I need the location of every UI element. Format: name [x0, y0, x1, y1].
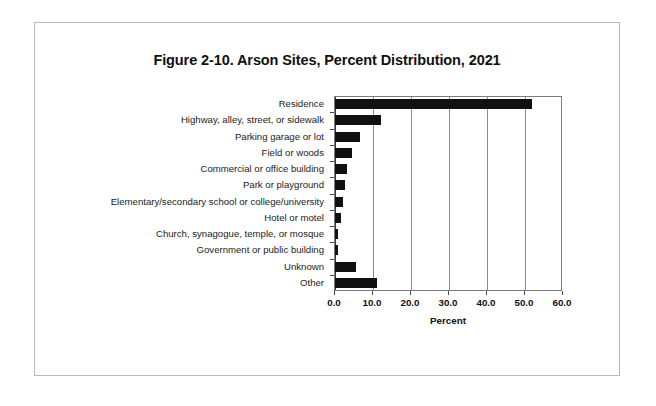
category-tick-mark: [330, 275, 334, 276]
bar[interactable]: [335, 115, 381, 125]
x-axis-tick-mark: [410, 291, 411, 295]
bar[interactable]: [335, 164, 347, 174]
bar[interactable]: [335, 229, 338, 239]
category-label: Government or public building: [56, 244, 324, 255]
category-tick-mark: [330, 177, 334, 178]
category-label: Field or woods: [56, 147, 324, 158]
x-axis-tick-label: 0.0: [314, 297, 354, 308]
category-tick-mark: [330, 161, 334, 162]
bar[interactable]: [335, 180, 345, 190]
x-axis-tick-mark: [562, 291, 563, 295]
category-label: Elementary/secondary school or college/u…: [56, 196, 324, 207]
bar-row[interactable]: [334, 129, 562, 145]
category-label: Residence: [56, 98, 324, 109]
bar-series: [334, 96, 562, 291]
bar-row[interactable]: [334, 259, 562, 275]
bar-row[interactable]: [334, 145, 562, 161]
figure-root: Figure 2-10. Arson Sites, Percent Distri…: [0, 0, 656, 406]
x-axis-tick-label: 30.0: [428, 297, 468, 308]
bar-row[interactable]: [334, 210, 562, 226]
category-tick-mark: [330, 259, 334, 260]
category-label: Unknown: [56, 261, 324, 272]
x-axis-tick-mark: [448, 291, 449, 295]
category-label: Parking garage or lot: [56, 131, 324, 142]
x-axis-tick-mark: [334, 291, 335, 295]
x-axis-tick-mark: [372, 291, 373, 295]
category-label: Highway, alley, street, or sidewalk: [56, 114, 324, 125]
category-tick-mark: [330, 194, 334, 195]
bar[interactable]: [335, 245, 338, 255]
bar-row[interactable]: [334, 177, 562, 193]
bar-row[interactable]: [334, 112, 562, 128]
chart-title: Figure 2-10. Arson Sites, Percent Distri…: [34, 52, 620, 68]
bar[interactable]: [335, 278, 377, 288]
category-tick-mark: [330, 210, 334, 211]
category-tick-mark: [330, 145, 334, 146]
x-axis-tick-label: 20.0: [390, 297, 430, 308]
bar-row[interactable]: [334, 194, 562, 210]
x-axis-tick-label: 10.0: [352, 297, 392, 308]
x-axis-tick-label: 40.0: [466, 297, 506, 308]
bar-row[interactable]: [334, 242, 562, 258]
category-label: Park or playground: [56, 179, 324, 190]
category-tick-mark: [330, 242, 334, 243]
category-tick-mark: [330, 129, 334, 130]
bar[interactable]: [335, 99, 532, 109]
category-axis-labels: ResidenceHighway, alley, street, or side…: [60, 96, 330, 291]
x-axis-tick-mark: [486, 291, 487, 295]
bar-row[interactable]: [334, 161, 562, 177]
category-label: Hotel or motel: [56, 212, 324, 223]
bar-row[interactable]: [334, 226, 562, 242]
category-label: Church, synagogue, temple, or mosque: [56, 228, 324, 239]
x-axis-title: Percent: [334, 315, 562, 326]
bar[interactable]: [335, 148, 352, 158]
category-tick-mark: [330, 226, 334, 227]
bar[interactable]: [335, 262, 356, 272]
bar[interactable]: [335, 197, 343, 207]
bar[interactable]: [335, 132, 360, 142]
bar-row[interactable]: [334, 96, 562, 112]
category-tick-mark: [330, 112, 334, 113]
bar-row[interactable]: [334, 275, 562, 291]
category-label: Other: [56, 277, 324, 288]
x-axis-tick-mark: [524, 291, 525, 295]
x-axis-tick-label: 50.0: [504, 297, 544, 308]
x-axis-tick-label: 60.0: [542, 297, 582, 308]
bar[interactable]: [335, 213, 341, 223]
category-label: Commercial or office building: [56, 163, 324, 174]
